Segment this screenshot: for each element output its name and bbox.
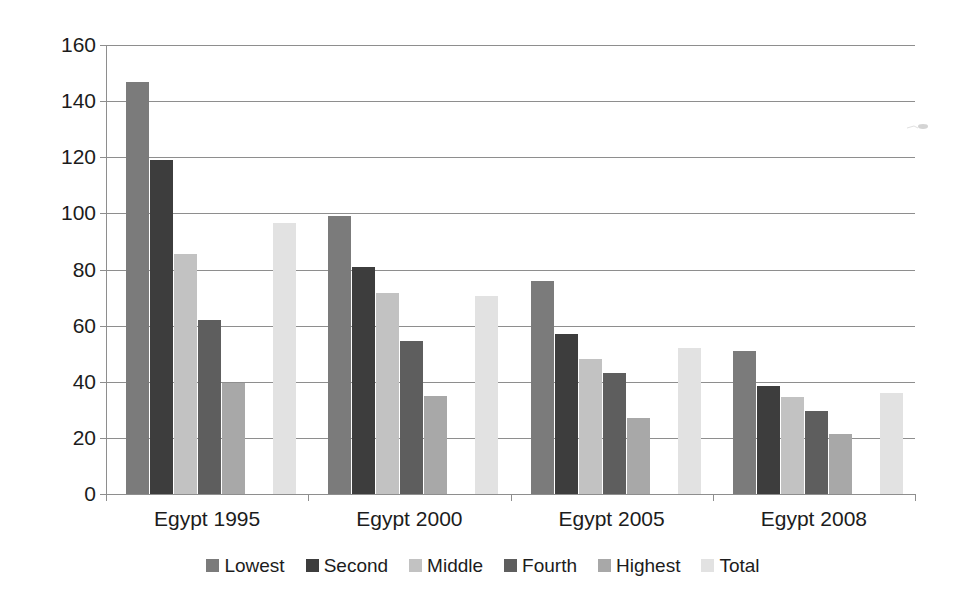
y-tick-label: 20: [36, 426, 96, 450]
legend-swatch-icon: [306, 559, 319, 572]
bar: [400, 341, 423, 494]
legend-item-second[interactable]: Second: [306, 556, 388, 575]
x-tick-mark: [106, 494, 107, 501]
legend-item-lowest[interactable]: Lowest: [206, 556, 284, 575]
bar: [880, 393, 903, 494]
bar: [678, 348, 701, 494]
legend-item-total[interactable]: Total: [701, 556, 759, 575]
y-tick-label: 40: [36, 370, 96, 394]
x-axis-label: Egypt 2000: [356, 507, 462, 531]
bar: [829, 434, 852, 494]
legend-label: Lowest: [224, 556, 284, 575]
bar: [475, 296, 498, 494]
y-tick-label: 120: [36, 145, 96, 169]
legend-label: Total: [719, 556, 759, 575]
legend-swatch-icon: [504, 559, 517, 572]
bar: [352, 267, 375, 494]
x-axis-label: Egypt 2005: [558, 507, 664, 531]
x-tick-mark: [713, 494, 714, 501]
y-tick-label: 60: [36, 314, 96, 338]
bar: [424, 396, 447, 494]
x-axis-label: Egypt 1995: [154, 507, 260, 531]
legend-swatch-icon: [206, 559, 219, 572]
legend-swatch-icon: [598, 559, 611, 572]
bar: [126, 82, 149, 495]
bar: [555, 334, 578, 494]
y-tick-label: 160: [36, 33, 96, 57]
bar: [273, 223, 296, 494]
bar: [174, 254, 197, 494]
x-tick-mark: [511, 494, 512, 501]
x-tick-mark: [308, 494, 309, 501]
bar: [150, 160, 173, 494]
bar: [603, 373, 626, 494]
plot-area: [106, 45, 915, 494]
bar: [579, 359, 602, 494]
legend-swatch-icon: [701, 559, 714, 572]
bar: [757, 386, 780, 494]
y-tick-label: 80: [36, 258, 96, 282]
legend-swatch-icon: [409, 559, 422, 572]
bar: [376, 293, 399, 494]
x-tick-mark: [915, 494, 916, 501]
bar: [531, 281, 554, 494]
chart-legend: LowestSecondMiddleFourthHighestTotal: [0, 556, 966, 575]
legend-item-highest[interactable]: Highest: [598, 556, 680, 575]
legend-label: Highest: [616, 556, 680, 575]
bar: [733, 351, 756, 494]
y-tick-label: 140: [36, 89, 96, 113]
legend-label: Middle: [427, 556, 483, 575]
x-axis-label: Egypt 2008: [761, 507, 867, 531]
legend-item-middle[interactable]: Middle: [409, 556, 483, 575]
legend-label: Fourth: [522, 556, 577, 575]
bar-chart: 020406080100120140160 Egypt 1995Egypt 20…: [0, 0, 966, 614]
bar: [198, 320, 221, 494]
bar: [627, 418, 650, 494]
legend-label: Second: [324, 556, 388, 575]
bar: [222, 383, 245, 494]
y-tick-label: 0: [36, 482, 96, 506]
bar: [805, 411, 828, 494]
legend-item-fourth[interactable]: Fourth: [504, 556, 577, 575]
bar: [781, 397, 804, 494]
bar: [328, 216, 351, 494]
y-tick-label: 100: [36, 201, 96, 225]
